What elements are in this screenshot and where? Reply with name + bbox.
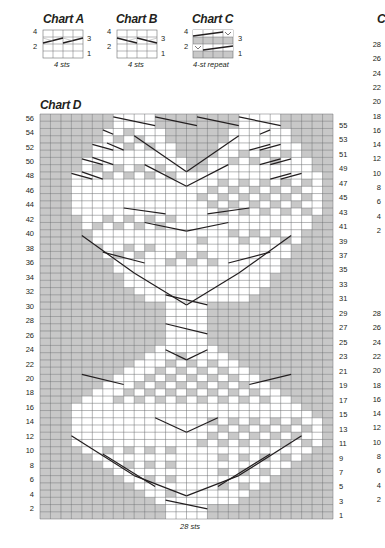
chart-c-label-2: 2: [184, 42, 188, 51]
chart-e-row-label: 26: [373, 54, 381, 63]
chart-d-row-label: 40: [26, 229, 34, 238]
chart-e-row-label: 16: [373, 126, 381, 135]
chart-c-title: Chart C: [192, 12, 233, 26]
chart-d-grid: [40, 114, 333, 519]
chart-e-row-label: 4: [377, 212, 381, 221]
chart-b-label-4: 4: [107, 27, 111, 36]
chart-e-row-label: 20: [373, 97, 381, 106]
chart-d-row-label: 16: [26, 403, 34, 412]
chart-d-row-label: 14: [26, 417, 34, 426]
chart-d-row-label: 18: [26, 388, 34, 397]
chart-d-row-label: 21: [339, 367, 347, 376]
chart-c-label-1: 1: [238, 49, 242, 58]
chart-d-row-label: 6: [30, 475, 34, 484]
chart-d-row-label: 45: [339, 193, 347, 202]
chart-d-row-label: 20: [26, 374, 34, 383]
chart-d-row-label: 8: [30, 461, 34, 470]
chart-d-row-label: 10: [26, 446, 34, 455]
chart-d-row-label: 36: [26, 258, 34, 267]
chart-d-row-label: 9: [339, 454, 343, 463]
chart-d-row-label: 54: [26, 128, 34, 137]
chart-e-row-label: 6: [377, 466, 381, 475]
chart-d-caption: 28 sts: [180, 522, 200, 531]
chart-d-row-label: 46: [26, 186, 34, 195]
chart-d-row-label: 13: [339, 425, 347, 434]
chart-d-row-label: 32: [26, 287, 34, 296]
chart-d-row-label: 39: [339, 237, 347, 246]
chart-d-row-label: 5: [339, 482, 343, 491]
chart-b-grid: [117, 30, 157, 58]
chart-c-label-3: 3: [238, 34, 242, 43]
chart-e-row-label: 12: [373, 423, 381, 432]
chart-d-title: Chart D: [40, 98, 81, 112]
chart-a-title: Chart A: [43, 12, 84, 26]
chart-e-row-label: 10: [373, 169, 381, 178]
chart-e-row-label: 4: [377, 481, 381, 490]
chart-a-label-1: 1: [87, 49, 91, 58]
chart-e-row-label: 28: [373, 40, 381, 49]
chart-e-row-label: 2: [377, 495, 381, 504]
chart-e-row-label: 12: [373, 154, 381, 163]
chart-d-row-label: 31: [339, 294, 347, 303]
chart-e-row-label: 6: [377, 197, 381, 206]
chart-e-row-label: 10: [373, 438, 381, 447]
chart-d-row-label: 51: [339, 150, 347, 159]
chart-d-row-label: 56: [26, 114, 34, 123]
chart-e-row-label: 24: [373, 338, 381, 347]
chart-e-row-label: 28: [373, 309, 381, 318]
chart-e-row-label: 22: [373, 83, 381, 92]
chart-e-row-label: 2: [377, 226, 381, 235]
chart-d-row-label: 35: [339, 265, 347, 274]
chart-e-row-label: 16: [373, 395, 381, 404]
chart-d-row-label: 33: [339, 280, 347, 289]
chart-d-row-label: 12: [26, 432, 34, 441]
chart-c-grid: [193, 30, 233, 58]
chart-d-row-label: 23: [339, 352, 347, 361]
chart-d-row-label: 1: [339, 511, 343, 520]
chart-a-label-2: 2: [33, 42, 37, 51]
chart-d-row-label: 19: [339, 381, 347, 390]
chart-d-row-label: 26: [26, 331, 34, 340]
chart-a-caption: 4 sts: [54, 60, 70, 69]
chart-d-row-label: 28: [26, 316, 34, 325]
chart-e-row-label: 26: [373, 323, 381, 332]
chart-e-row-label: 20: [373, 366, 381, 375]
chart-e-row-label: 14: [373, 140, 381, 149]
chart-e-row-label: 8: [377, 452, 381, 461]
chart-d-row-label: 48: [26, 171, 34, 180]
chart-d-row-label: 3: [339, 497, 343, 506]
chart-d-row-label: 25: [339, 338, 347, 347]
chart-e-row-label: 14: [373, 409, 381, 418]
chart-d-row-label: 53: [339, 135, 347, 144]
chart-a-label-4: 4: [33, 27, 37, 36]
chart-d-row-label: 2: [30, 504, 34, 513]
chart-d-row-label: 43: [339, 208, 347, 217]
chart-d-row-label: 38: [26, 244, 34, 253]
chart-b-caption: 4 sts: [128, 60, 144, 69]
chart-b-label-3: 3: [161, 34, 165, 43]
chart-d-row-label: 15: [339, 410, 347, 419]
chart-d-row-label: 47: [339, 179, 347, 188]
chart-b-title: Chart B: [116, 12, 157, 26]
chart-e-row-label: 18: [373, 112, 381, 121]
chart-e-row-label: 18: [373, 381, 381, 390]
chart-d-row-label: 49: [339, 164, 347, 173]
chart-a-grid: [43, 30, 83, 58]
chart-d-row-label: 4: [30, 490, 34, 499]
chart-d-row-label: 22: [26, 360, 34, 369]
chart-d-row-label: 44: [26, 200, 34, 209]
chart-d-row-label: 24: [26, 345, 34, 354]
chart-a-label-3: 3: [87, 34, 91, 43]
chart-d-row-label: 37: [339, 251, 347, 260]
chart-d-row-label: 55: [339, 121, 347, 130]
chart-d-row-label: 34: [26, 273, 34, 282]
chart-b-label-2: 2: [107, 42, 111, 51]
chart-d-row-label: 29: [339, 309, 347, 318]
chart-d-row-label: 42: [26, 215, 34, 224]
chart-d-row-label: 7: [339, 468, 343, 477]
chart-e-row-label: 24: [373, 69, 381, 78]
chart-c-label-4: 4: [184, 27, 188, 36]
chart-d-row-label: 17: [339, 396, 347, 405]
chart-e-row-label: 8: [377, 183, 381, 192]
chart-e-row-label: 22: [373, 352, 381, 361]
